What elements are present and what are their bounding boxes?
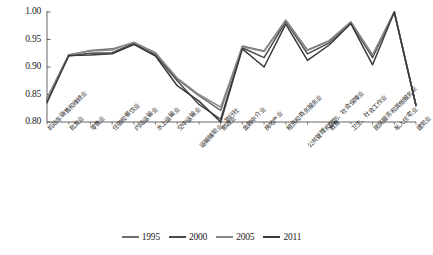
legend-item[interactable]: 1995 [122, 232, 160, 242]
series-line-2000 [47, 12, 416, 119]
legend-item[interactable]: 2005 [216, 232, 254, 242]
axis-lines [47, 11, 416, 122]
legend-label: 2005 [236, 232, 254, 242]
legend-line-swatch [169, 236, 186, 238]
legend-line-swatch [216, 236, 233, 238]
legend-item[interactable]: 2011 [263, 232, 301, 242]
y-axis-tick-marks [47, 12, 51, 122]
legend-label: 2011 [283, 232, 301, 242]
legend-item[interactable]: 2000 [169, 232, 207, 242]
legend-label: 2000 [189, 232, 207, 242]
legend-line-swatch [263, 236, 280, 238]
data-series-layer [47, 12, 416, 122]
legend-line-swatch [122, 236, 139, 238]
series-line-2011 [47, 12, 416, 122]
chart-legend: 1995200020052011 [0, 232, 423, 242]
legend-label: 1995 [142, 232, 160, 242]
